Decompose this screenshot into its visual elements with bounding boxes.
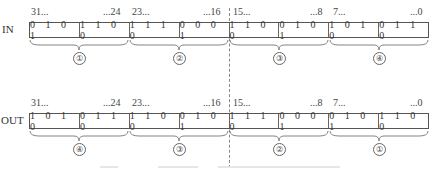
nibble: 0 1 0 1: [180, 114, 230, 128]
nibble: 1 1 0 0: [379, 114, 428, 128]
nibble: 1 0 1 0: [329, 23, 379, 37]
in-register: 0 1 0 1 1 1 0 0 1 1 1 0 0 0 0 1 1 1 0 0 …: [29, 22, 429, 38]
bit-label: 7...: [333, 97, 346, 108]
in-byte-braces-icon: [29, 39, 429, 51]
nibble: 0 1 0 1: [329, 114, 379, 128]
bit-label: 15...: [233, 6, 251, 17]
bit-label: 7...: [333, 6, 346, 17]
bit-label: 31...: [31, 6, 49, 17]
bit-label: ...16: [203, 6, 221, 17]
nibble: 1 1 1 0: [230, 114, 280, 128]
bit-label: ...24: [103, 6, 121, 17]
nibble: 0 1 1 0: [80, 114, 130, 128]
byte-group-marker: ③: [173, 143, 186, 156]
bit-label: ...16: [203, 97, 221, 108]
in-bit-labels: 31... ...24 23... ...16 15... ...8 7... …: [29, 6, 429, 18]
byte-group-marker: ②: [273, 143, 286, 156]
byte-group-marker: ③: [273, 52, 286, 65]
bit-label: 23...: [132, 97, 150, 108]
in-label: IN: [2, 23, 14, 35]
byte-group-marker: ①: [373, 143, 386, 156]
nibble: 1 0 1 0: [30, 114, 80, 128]
out-bit-labels: 31... ...24 23... ...16 15... ...8 7... …: [29, 97, 429, 109]
bit-label: ...0: [410, 6, 423, 17]
out-byte-braces-icon: [29, 130, 429, 142]
out-label: OUT: [1, 114, 24, 126]
nibble: 0 1 0 1: [279, 23, 329, 37]
nibble: 0 0 0 1: [279, 114, 329, 128]
nibble: 1 1 0 0: [230, 23, 280, 37]
byte-group-marker: ④: [73, 143, 86, 156]
bit-label: ...8: [310, 6, 323, 17]
bit-label: ...0: [410, 97, 423, 108]
bit-label: 31...: [31, 97, 49, 108]
nibble: 1 1 0 0: [130, 114, 180, 128]
nibble: 1 1 1 0: [130, 23, 180, 37]
nibble: 1 1 0 0: [80, 23, 130, 37]
out-register: 1 0 1 0 0 1 1 0 1 1 0 0 0 1 0 1 1 1 1 0 …: [29, 113, 429, 129]
bit-label: 23...: [132, 6, 150, 17]
nibble: 0 1 0 1: [30, 23, 80, 37]
byte-group-marker: ②: [173, 52, 186, 65]
bit-label: ...24: [103, 97, 121, 108]
nibble: 0 0 0 1: [180, 23, 230, 37]
figure-caption: [100, 164, 340, 170]
bit-label: ...8: [310, 97, 323, 108]
nibble: 0 1 1 0: [379, 23, 428, 37]
byte-group-marker: ①: [73, 52, 86, 65]
byte-group-marker: ④: [373, 52, 386, 65]
bit-label: 15...: [233, 97, 251, 108]
